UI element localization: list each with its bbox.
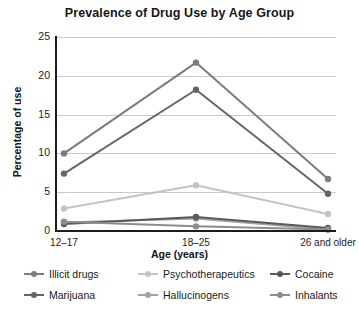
legend-item[interactable]: Cocaine [270, 268, 334, 280]
legend-label: Psychotherapeutics [163, 268, 255, 280]
legend-label: Hallucinogens [163, 289, 229, 301]
series-lines [56, 37, 336, 231]
data-point [325, 211, 331, 217]
legend-item[interactable]: Inhalants [270, 289, 338, 301]
legend-label: Cocaine [295, 268, 334, 280]
legend-marker-icon [138, 269, 158, 279]
plot-area [56, 37, 336, 231]
data-point [61, 150, 67, 156]
series-line [64, 185, 328, 214]
y-tick-label: 0 [18, 224, 50, 236]
x-tick-label: 26 and older [300, 237, 356, 248]
y-tick-label: 15 [18, 108, 50, 120]
data-point [61, 205, 67, 211]
data-point [325, 176, 331, 182]
legend-item[interactable]: Psychotherapeutics [138, 268, 255, 280]
y-tick-label: 5 [18, 185, 50, 197]
legend-marker-icon [270, 290, 290, 300]
chart-container: Prevalence of Drug Use by Age Group Perc… [0, 0, 359, 315]
y-tick-label: 20 [18, 69, 50, 81]
legend-item[interactable]: Hallucinogens [138, 289, 229, 301]
legend-marker-icon [270, 269, 290, 279]
x-axis-spine [55, 230, 336, 232]
data-point [193, 87, 199, 93]
data-point [193, 182, 199, 188]
data-point [193, 223, 199, 229]
data-point [61, 170, 67, 176]
x-tick-label: 12–17 [50, 237, 78, 248]
legend-label: Inhalants [295, 289, 338, 301]
legend-item[interactable]: Marijuana [24, 289, 95, 301]
y-tick-label: 10 [18, 146, 50, 158]
legend-item[interactable]: Illicit drugs [24, 268, 99, 280]
data-point [193, 59, 199, 65]
legend-marker-icon [24, 269, 44, 279]
data-point [61, 218, 67, 224]
chart-title: Prevalence of Drug Use by Age Group [0, 6, 359, 20]
data-point [193, 214, 199, 220]
legend-marker-icon [24, 290, 44, 300]
x-tick-label: 18–25 [182, 237, 210, 248]
legend-label: Illicit drugs [49, 268, 99, 280]
legend-marker-icon [138, 290, 158, 300]
x-axis-label: Age (years) [0, 248, 359, 260]
chart-legend: Illicit drugsPsychotherapeuticsCocaineMa… [10, 268, 349, 312]
data-point [325, 191, 331, 197]
y-tick-label: 25 [18, 30, 50, 42]
y-axis-spine [55, 36, 57, 232]
legend-label: Marijuana [49, 289, 95, 301]
series-line [64, 90, 328, 194]
